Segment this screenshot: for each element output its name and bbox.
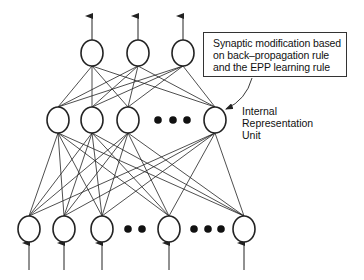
hidden-unit-node <box>81 107 103 133</box>
connection-edge <box>58 66 138 107</box>
connection-edge <box>29 133 92 216</box>
hidden-unit-node <box>204 107 226 133</box>
connection-edge <box>128 133 169 216</box>
input-unit-node <box>18 216 40 242</box>
connection-edge <box>128 133 244 216</box>
input-unit-node <box>53 216 75 242</box>
ellipsis-dot <box>169 116 177 124</box>
input-unit-node <box>91 216 113 242</box>
unit-label-line-1: Internal <box>242 105 313 117</box>
connection-edge <box>29 133 215 216</box>
ellipsis-dot <box>154 116 162 124</box>
ellipsis-dot <box>183 116 191 124</box>
unit-label-line-3: Unit <box>242 129 313 141</box>
synaptic-modification-note: Synaptic modification based on back–prop… <box>203 32 347 77</box>
connection-edge <box>92 133 169 216</box>
hidden-unit-node <box>47 107 69 133</box>
input-unit-node <box>158 216 180 242</box>
connection-edges <box>29 66 244 216</box>
note-line-1: Synaptic modification based <box>213 37 346 49</box>
ellipsis-dot <box>124 225 132 233</box>
output-unit-node <box>172 40 194 66</box>
connection-edge <box>92 66 183 107</box>
hidden-unit-node <box>117 107 139 133</box>
neural-network-diagram: Synaptic modification based on back–prop… <box>0 0 364 280</box>
output-unit-node <box>81 40 103 66</box>
connection-edge <box>92 133 102 216</box>
connection-edge <box>58 66 183 107</box>
ellipsis-dot <box>138 225 146 233</box>
connection-edge <box>215 133 244 216</box>
ellipsis-dot <box>190 225 198 233</box>
unit-label-line-2: Representation <box>242 117 313 129</box>
connection-edge <box>58 133 102 216</box>
note-line-2: on back–propagation rule <box>213 49 346 61</box>
note-line-3: and the EPP learning rule <box>213 61 346 73</box>
connection-edge <box>92 66 138 107</box>
internal-representation-unit-label: Internal Representation Unit <box>242 105 313 141</box>
output-unit-node <box>127 40 149 66</box>
ellipsis-dot <box>204 225 212 233</box>
connection-edge <box>102 133 215 216</box>
connection-edge <box>58 66 92 107</box>
ellipsis-dot <box>217 225 225 233</box>
input-unit-node <box>233 216 255 242</box>
